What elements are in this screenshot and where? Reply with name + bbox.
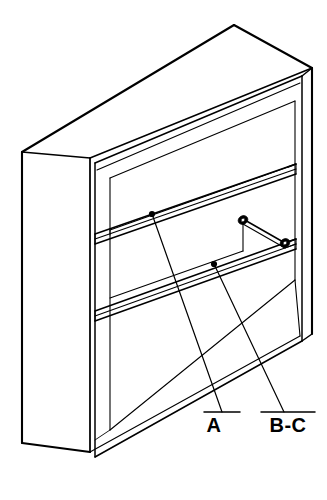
cabinet-isometric-drawing: A B-C <box>0 0 327 500</box>
callout-a-label: A <box>207 414 222 436</box>
cabinet-front-frame-fill <box>302 68 312 341</box>
cabinet-left-side-fill <box>22 152 90 452</box>
callout-bc-label: B-C <box>269 414 306 436</box>
technical-drawing-canvas: A B-C <box>0 0 327 500</box>
